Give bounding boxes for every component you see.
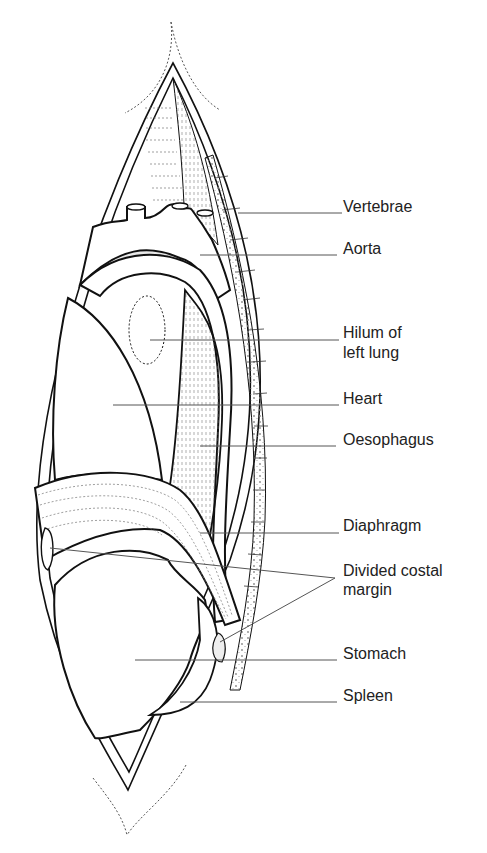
label-vertebrae: Vertebrae <box>343 197 412 216</box>
label-costal-line1: Divided costal <box>343 561 443 580</box>
label-hilum-line2: left lung <box>343 343 399 362</box>
heart-shape <box>53 298 162 480</box>
label-costal-line2: margin <box>343 580 392 599</box>
label-spleen: Spleen <box>343 686 393 705</box>
hilum-outline <box>129 296 165 364</box>
stomach-shape <box>54 551 206 739</box>
anatomy-illustration <box>0 0 487 853</box>
label-aorta: Aorta <box>343 239 381 258</box>
costal-margin-left <box>41 528 53 570</box>
label-hilum-line1: Hilum of <box>343 323 402 342</box>
label-heart: Heart <box>343 389 382 408</box>
label-stomach: Stomach <box>343 644 406 663</box>
label-oesophagus: Oesophagus <box>343 430 434 449</box>
label-diaphragm: Diaphragm <box>343 516 421 535</box>
